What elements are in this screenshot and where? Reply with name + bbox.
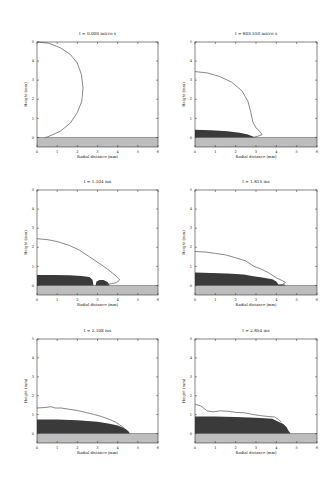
- y-tick-label: 1: [190, 265, 192, 269]
- panel-1: 0123456012345t = 0.000 micro sRadial dis…: [23, 31, 160, 159]
- x-tick-label: 5: [296, 298, 299, 302]
- y-tick-label: 5: [32, 40, 35, 44]
- x-tick-label: 4: [275, 446, 278, 450]
- x-tick-label: 2: [76, 298, 78, 302]
- x-tick-label: 0: [194, 446, 197, 450]
- y-tick-label: 1: [32, 413, 34, 417]
- y-tick-label: 2: [190, 245, 192, 249]
- y-tick-label: 3: [190, 375, 193, 379]
- y-tick-label: 5: [190, 337, 193, 341]
- y-axis-label: Height (mm): [181, 230, 186, 255]
- y-tick-label: 0: [190, 432, 193, 436]
- x-tick-label: 4: [117, 298, 120, 302]
- x-tick-label: 5: [137, 150, 140, 154]
- panel-title: t = 1.615 ms: [242, 179, 269, 184]
- x-axis-label: Radial distance (mm): [235, 450, 277, 455]
- x-tick-label: 3: [255, 298, 258, 302]
- panel-5: 0123456012345t = 2.108 msRadial distance…: [23, 328, 160, 455]
- y-axis-label: Height (mm): [23, 230, 28, 255]
- x-tick-label: 3: [255, 446, 258, 450]
- y-tick-label: 0: [190, 284, 193, 288]
- y-tick-label: 5: [32, 188, 35, 192]
- x-tick-label: 3: [255, 150, 258, 154]
- panel-title: t = 0.000 micro s: [79, 31, 116, 36]
- y-tick-label: 1: [32, 265, 34, 269]
- panel-title: t = 2.654 ms: [242, 328, 269, 333]
- x-tick-label: 2: [235, 150, 237, 154]
- y-tick-label: 0: [32, 284, 35, 288]
- y-tick-label: 3: [32, 226, 35, 230]
- x-tick-label: 0: [36, 446, 39, 450]
- y-tick-label: 4: [190, 207, 193, 211]
- panel-title: t = 1.104 ms: [84, 179, 111, 184]
- y-axis-label: Height (mm): [23, 378, 28, 403]
- x-axis-label: Radial distance (mm): [77, 154, 119, 159]
- y-tick-label: 1: [32, 117, 34, 121]
- y-tick-label: 2: [32, 394, 34, 398]
- x-tick-label: 1: [214, 150, 216, 154]
- y-tick-label: 4: [32, 207, 35, 211]
- y-tick-label: 3: [32, 375, 35, 379]
- solidified-splat: [37, 419, 130, 433]
- panel-2: 0123456012345t = 603.550 micro sRadial d…: [181, 31, 319, 159]
- x-tick-label: 6: [316, 298, 319, 302]
- panel-title: t = 2.108 ms: [84, 328, 111, 333]
- x-tick-label: 5: [296, 150, 299, 154]
- y-tick-label: 1: [190, 117, 192, 121]
- plot-frame: [37, 42, 158, 147]
- solidified-splat: [37, 275, 110, 286]
- x-tick-label: 2: [76, 150, 78, 154]
- y-tick-label: 5: [190, 188, 193, 192]
- panel-3: 0123456012345t = 1.104 msRadial distance…: [23, 179, 160, 307]
- x-tick-label: 1: [56, 150, 58, 154]
- y-tick-label: 4: [190, 59, 193, 63]
- x-tick-label: 1: [56, 298, 58, 302]
- y-tick-label: 2: [190, 394, 192, 398]
- y-tick-label: 1: [190, 413, 192, 417]
- x-tick-label: 0: [36, 298, 39, 302]
- solidified-splat: [195, 417, 291, 434]
- x-tick-label: 3: [96, 446, 99, 450]
- y-tick-label: 2: [190, 97, 192, 101]
- panel-title: t = 603.550 micro s: [235, 31, 277, 36]
- x-tick-label: 3: [96, 150, 99, 154]
- x-tick-label: 2: [235, 298, 237, 302]
- x-tick-label: 4: [117, 150, 120, 154]
- y-tick-label: 2: [32, 245, 34, 249]
- x-axis-label: Radial distance (mm): [77, 450, 119, 455]
- y-tick-label: 0: [32, 432, 35, 436]
- droplet-free-surface: [37, 42, 83, 138]
- x-axis-label: Radial distance (mm): [235, 302, 277, 307]
- x-tick-label: 6: [316, 150, 319, 154]
- y-tick-label: 4: [190, 356, 193, 360]
- x-axis-label: Radial distance (mm): [235, 154, 277, 159]
- x-tick-label: 1: [214, 298, 216, 302]
- y-axis-label: Height (mm): [23, 82, 28, 107]
- droplet-impact-figure: 0123456012345t = 0.000 micro sRadial dis…: [0, 0, 336, 478]
- y-axis-label: Height (mm): [181, 82, 186, 107]
- x-tick-label: 1: [56, 446, 58, 450]
- solidified-splat: [195, 130, 254, 138]
- y-tick-label: 3: [190, 226, 193, 230]
- y-tick-label: 4: [32, 59, 35, 63]
- x-tick-label: 4: [117, 446, 120, 450]
- y-tick-label: 3: [190, 78, 193, 82]
- y-tick-label: 4: [32, 356, 35, 360]
- x-tick-label: 6: [316, 446, 319, 450]
- y-tick-label: 2: [32, 97, 34, 101]
- panel-4: 0123456012345t = 1.615 msRadial distance…: [181, 179, 319, 307]
- x-tick-label: 4: [275, 150, 278, 154]
- solidified-splat: [195, 273, 286, 286]
- x-tick-label: 6: [157, 150, 160, 154]
- x-tick-label: 3: [96, 298, 99, 302]
- y-tick-label: 3: [32, 78, 35, 82]
- x-tick-label: 6: [157, 298, 160, 302]
- y-tick-label: 5: [32, 337, 35, 341]
- y-axis-label: Height (mm): [181, 378, 186, 403]
- x-tick-label: 1: [214, 446, 216, 450]
- x-tick-label: 2: [235, 446, 237, 450]
- x-tick-label: 5: [137, 446, 140, 450]
- x-tick-label: 5: [137, 298, 140, 302]
- x-tick-label: 2: [76, 446, 78, 450]
- x-tick-label: 5: [296, 446, 299, 450]
